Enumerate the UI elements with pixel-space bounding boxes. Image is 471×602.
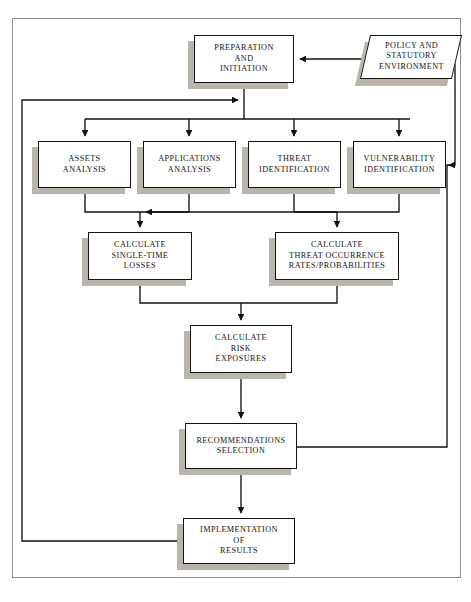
node-implementation-of-results-label: IMPLEMENTATION OF RESULTS <box>197 525 281 556</box>
node-calculate-risk-exposures[interactable]: CALCULATE RISK EXPOSURES <box>190 325 292 373</box>
flowchart-page: PREPARATION AND INITIATION POLICY AND ST… <box>0 0 471 602</box>
node-calculate-threat-occurrence-label: CALCULATE THREAT OCCURRENCE RATES/PROBAB… <box>286 240 388 271</box>
node-calculate-single-time-losses-label: CALCULATE SINGLE-TIME LOSSES <box>109 240 172 271</box>
node-applications-analysis-label: APPLICATIONS ANALYSIS <box>155 154 224 175</box>
node-preparation-label: PREPARATION AND INITIATION <box>211 43 277 74</box>
wire-recommendations-feedback-right <box>297 165 452 447</box>
node-applications-analysis[interactable]: APPLICATIONS ANALYSIS <box>143 141 236 188</box>
node-calculate-risk-exposures-label: CALCULATE RISK EXPOSURES <box>212 333 270 364</box>
node-policy[interactable]: POLICY AND STATUTORY ENVIRONMENT <box>360 35 462 79</box>
node-recommendations-selection-label: RECOMMENDATIONS SELECTION <box>193 436 288 457</box>
node-assets-analysis[interactable]: ASSETS ANALYSIS <box>38 141 131 188</box>
node-vulnerability-identification-label: VULNERABILITY IDENTIFICATION <box>361 154 439 175</box>
node-implementation-of-results[interactable]: IMPLEMENTATION OF RESULTS <box>183 518 295 564</box>
connector-layer <box>0 0 471 602</box>
node-policy-label: POLICY AND STATUTORY ENVIRONMENT <box>376 41 447 72</box>
node-vulnerability-identification[interactable]: VULNERABILITY IDENTIFICATION <box>353 141 446 188</box>
node-calculate-threat-occurrence[interactable]: CALCULATE THREAT OCCURRENCE RATES/PROBAB… <box>275 232 399 280</box>
node-preparation[interactable]: PREPARATION AND INITIATION <box>194 35 294 83</box>
node-threat-identification[interactable]: THREAT IDENTIFICATION <box>248 141 341 188</box>
wire-policy-feedback-right <box>449 64 455 165</box>
node-recommendations-selection[interactable]: RECOMMENDATIONS SELECTION <box>185 423 297 469</box>
node-threat-identification-label: THREAT IDENTIFICATION <box>256 154 333 175</box>
node-calculate-single-time-losses[interactable]: CALCULATE SINGLE-TIME LOSSES <box>88 232 192 280</box>
node-assets-analysis-label: ASSETS ANALYSIS <box>60 154 109 175</box>
